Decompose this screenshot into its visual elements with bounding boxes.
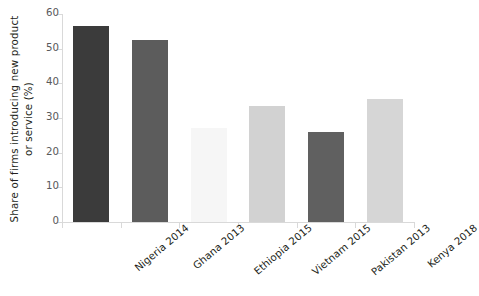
y-tick-label: 20	[46, 146, 59, 157]
x-tick-label: Pakistan 2013	[369, 222, 432, 277]
y-tick: 30	[62, 118, 63, 119]
y-tick: 40	[62, 83, 63, 84]
bar	[308, 132, 344, 222]
y-tick: 10	[62, 187, 63, 188]
y-tick-label: 60	[46, 7, 59, 18]
x-tick-label: Nigeria 2014	[133, 222, 191, 273]
x-tick-label: Ghana 2013	[191, 222, 247, 271]
y-tick: 60	[62, 14, 63, 15]
bar	[73, 26, 109, 222]
y-tick-label: 40	[46, 76, 59, 87]
y-tick-label: 30	[46, 111, 59, 122]
y-tick-label: 0	[53, 215, 59, 226]
x-tick-label: Vietnam 2015	[310, 222, 373, 277]
bar	[367, 99, 403, 222]
y-tick: 50	[62, 49, 63, 50]
y-tick-label: 10	[46, 180, 59, 191]
bar	[191, 128, 227, 222]
plot-area: 0102030405060	[62, 14, 414, 222]
x-axis-labels: Nigeria 2014Ghana 2013Ethiopia 2015Vietn…	[62, 222, 414, 296]
bar	[249, 106, 285, 222]
bar	[132, 40, 168, 222]
x-tick-mark	[414, 222, 415, 228]
y-tick: 20	[62, 153, 63, 154]
y-axis-title: Share of firms introducing new product o…	[8, 4, 38, 234]
x-tick-label: Kenya 2018	[425, 222, 479, 270]
x-tick-label: Ethiopia 2015	[251, 222, 313, 277]
y-tick-label: 50	[46, 42, 59, 53]
